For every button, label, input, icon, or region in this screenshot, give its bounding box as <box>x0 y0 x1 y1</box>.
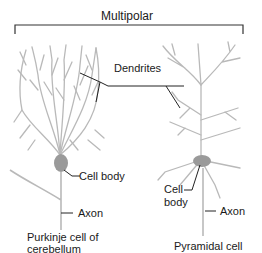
caption-right: Pyramidal cell <box>174 240 242 252</box>
pyramidal-cell-body <box>193 155 211 167</box>
leader-lines <box>61 73 216 213</box>
label-cell-body-left: Cell body <box>79 170 125 182</box>
pyramidal-dendrites <box>158 42 240 198</box>
caption-left-2: cerebellum <box>27 243 81 253</box>
caption-left-1: Purkinje cell of <box>27 231 99 243</box>
purkinje-cell-body <box>54 154 68 172</box>
label-cell-right: Cell <box>164 183 183 195</box>
title: Multipolar <box>101 10 153 22</box>
purkinje-dendrites <box>14 45 104 155</box>
label-axon-left: Axon <box>78 207 103 219</box>
label-axon-right: Axon <box>220 205 245 217</box>
label-dendrites: Dendrites <box>114 62 161 74</box>
label-body-right: body <box>164 196 188 208</box>
purkinje-axon <box>10 170 61 230</box>
group-bracket <box>15 25 243 34</box>
